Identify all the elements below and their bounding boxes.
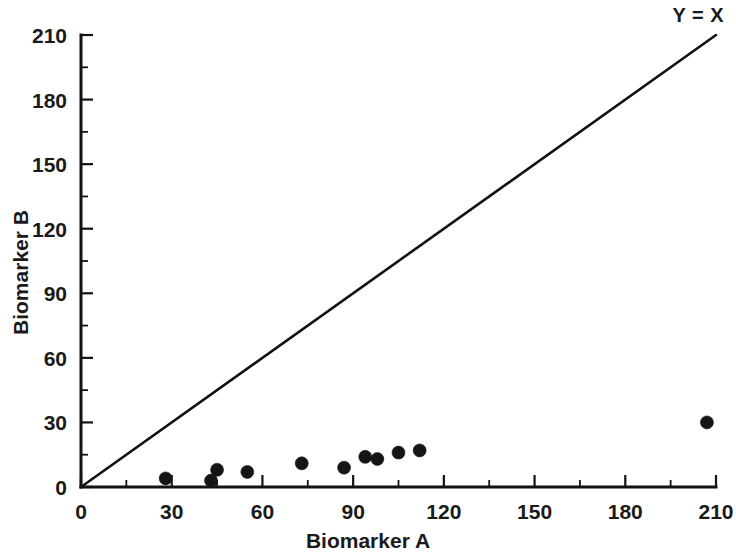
x-tick-label: 0	[75, 501, 87, 522]
data-point	[159, 472, 172, 485]
x-tick-label: 210	[698, 501, 733, 522]
x-tick-label: 60	[251, 501, 274, 522]
data-point	[241, 465, 254, 478]
data-point	[392, 446, 405, 459]
data-point	[371, 453, 384, 466]
x-tick-label: 180	[608, 501, 643, 522]
y-tick-label: 150	[0, 154, 67, 175]
data-point	[700, 416, 713, 429]
identity-line-annotation: Y = X	[672, 4, 724, 27]
x-tick-label: 30	[160, 501, 183, 522]
x-tick-label: 120	[426, 501, 461, 522]
data-point	[295, 457, 308, 470]
y-axis-title: Biomarker B	[10, 183, 31, 363]
plot-canvas	[0, 0, 736, 559]
x-tick-label: 150	[517, 501, 552, 522]
y-tick-label: 180	[0, 89, 67, 110]
data-point	[359, 450, 372, 463]
data-point	[338, 461, 351, 474]
y-tick-label: 210	[0, 25, 67, 46]
scatter-plot-figure: 0306090120150180210 0306090120150180210 …	[0, 0, 736, 559]
identity-line	[81, 35, 716, 487]
data-point	[211, 463, 224, 476]
data-points-group	[159, 416, 713, 487]
x-tick-label: 90	[341, 501, 364, 522]
data-point	[413, 444, 426, 457]
y-tick-label: 0	[0, 477, 67, 498]
y-tick-label: 30	[0, 412, 67, 433]
identity-reference-line	[81, 35, 716, 487]
x-axis-title: Biomarker A	[0, 530, 736, 551]
